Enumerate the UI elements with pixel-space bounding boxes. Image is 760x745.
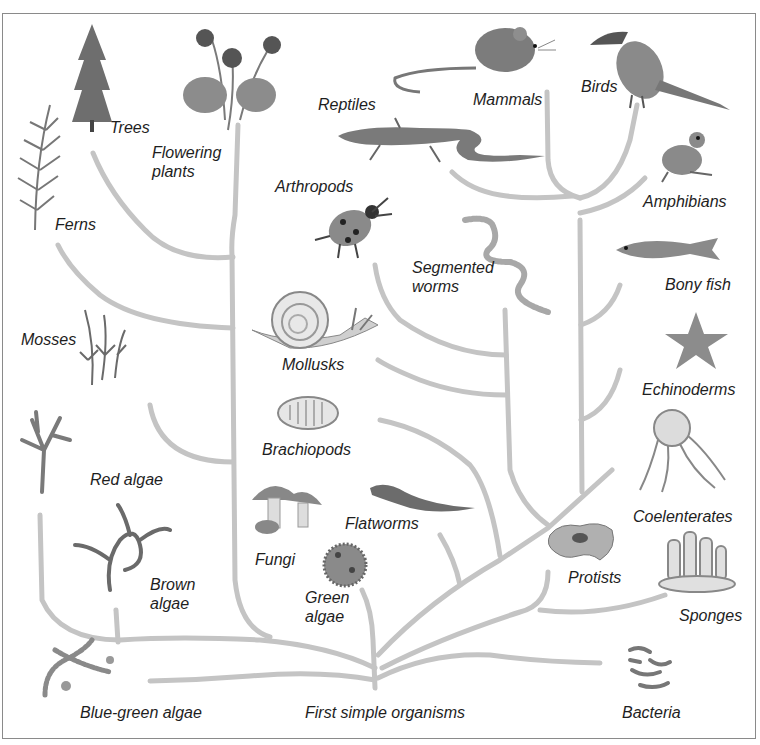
label-bacteria: Bacteria [622,703,681,722]
label-brown-algae: Brown algae [150,575,195,613]
green-algae-sphere-icon [324,544,366,586]
label-flatworms: Flatworms [345,514,419,533]
branch-mollusks [378,360,506,395]
fern-frond-icon [18,105,60,230]
ladybug-icon [315,198,392,258]
label-birds: Birds [581,77,617,96]
label-green-algae: Green algae [305,588,349,626]
label-brachiopods: Brachiopods [262,440,351,459]
red-algae-icon [22,412,70,492]
label-bony-fish: Bony fish [665,275,731,294]
label-fungi: Fungi [255,550,295,569]
moss-icon [80,310,126,385]
label-blue-green-algae: Blue-green algae [80,703,202,722]
label-flowering-plants: Flowering plants [152,143,221,181]
toucan-bird-icon [590,32,730,110]
branch-blue-green-algae [150,674,375,681]
branch-birds [580,105,637,198]
label-segmented-worms: Segmented worms [412,258,494,296]
label-red-algae: Red algae [90,470,163,489]
branch-bacteria [378,655,600,678]
label-trees: Trees [110,118,150,137]
label-amphibians: Amphibians [643,192,727,211]
branch-green-algae [362,590,375,688]
blue-green-algae-cell-icon [61,681,71,691]
branch-flatworms [440,535,460,585]
mouse-icon [395,27,556,92]
label-first-simple-organisms: First simple organisms [305,703,465,722]
label-mammals: Mammals [473,90,542,109]
label-sponges: Sponges [679,606,742,625]
frog-icon [662,132,712,182]
label-mollusks: Mollusks [282,355,344,374]
label-echinoderms: Echinoderms [642,380,735,399]
jellyfish-icon [640,410,725,492]
fish-icon [616,238,720,260]
brachiopod-shell-icon [278,397,338,429]
branch-echinoderms [581,370,620,420]
label-mosses: Mosses [21,330,76,349]
branch-bony-fish [581,285,620,325]
starfish-icon [665,312,728,369]
label-protists: Protists [568,568,621,587]
branch-mammals [547,92,580,198]
mushroom-icon [252,486,322,534]
branch-sponges [540,595,665,612]
blue-green-algae-icon [45,640,110,695]
conifer-tree-icon [72,24,112,132]
branch-protostome-trunk [505,310,548,525]
bacteria-icon [630,648,670,687]
blue-green-algae-cell-icon [106,656,114,664]
amoeba-icon [548,524,613,560]
label-reptiles: Reptiles [318,95,376,114]
branch-brown-algae [116,610,118,642]
flatworm-icon [370,485,475,512]
violet-flower-icon [183,29,281,130]
snail-icon [252,292,378,348]
evolutionary-tree-branches [0,0,760,745]
label-coelenterates: Coelenterates [633,507,733,526]
label-arthropods: Arthropods [275,177,353,196]
branch-red-algae [150,405,233,462]
branch-chordate-trunk [580,220,582,492]
sponge-icon [659,532,735,592]
lizard-icon [338,118,545,162]
label-ferns: Ferns [55,215,96,234]
